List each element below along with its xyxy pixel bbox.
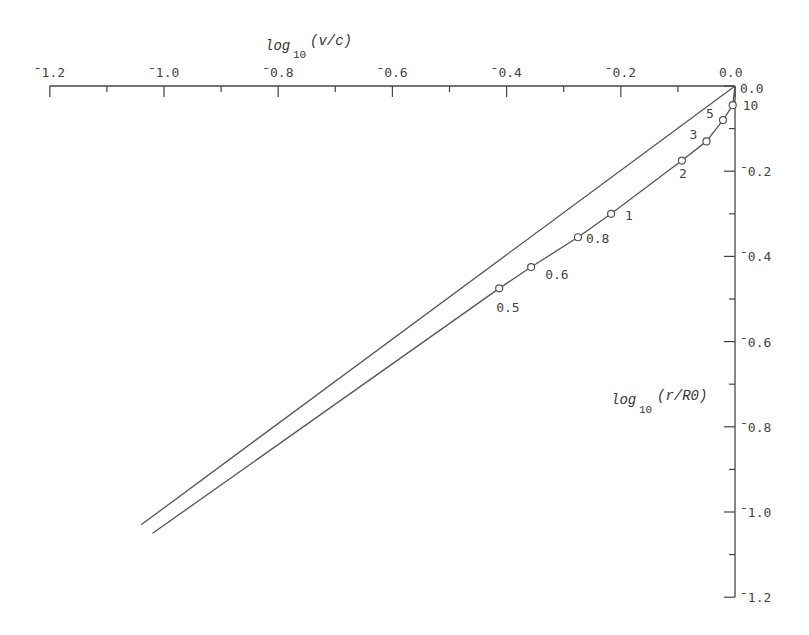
x-tick-label: ¯0.6 [376, 65, 407, 80]
data-point-label: 5 [706, 106, 714, 121]
y-tick-label: 0.0 [740, 81, 763, 96]
y-tick-label: ¯0.6 [740, 335, 771, 350]
y-tick-label: ¯1.2 [740, 590, 771, 605]
y-tick-label: ¯0.2 [740, 164, 771, 179]
data-markers: 1053210.80.60.5 [496, 98, 759, 315]
data-point-marker [528, 264, 535, 271]
x-tick-label: ¯0.4 [491, 65, 522, 80]
y-tick-label: ¯0.4 [740, 249, 771, 264]
x-tick-label: 0.0 [719, 65, 742, 80]
y-tick-label: ¯1.0 [740, 505, 771, 520]
y-axis-label-subscript: 10 [639, 404, 652, 416]
data-point-marker [720, 117, 727, 124]
x-axis-label: log [265, 38, 290, 54]
data-point-marker [678, 157, 685, 164]
data-point-label: 0.8 [586, 231, 609, 246]
y-tick-label: ¯0.8 [740, 420, 771, 435]
data-point-label: 2 [679, 166, 687, 181]
data-point-label: 1 [625, 208, 633, 223]
data-point-marker [496, 285, 503, 292]
x-tick-label: ¯0.2 [605, 65, 636, 80]
data-point-label: 0.5 [496, 300, 519, 315]
data-point-marker [608, 210, 615, 217]
data-point-label: 10 [743, 98, 759, 113]
data-point-label: 0.6 [545, 267, 568, 282]
y-axis-label: log [611, 392, 636, 408]
straight-line-series [141, 86, 735, 525]
axes: ¯1.2¯1.0¯0.8¯0.6¯0.4¯0.20.00.0¯0.2¯0.4¯0… [34, 65, 772, 605]
x-tick-label: ¯0.8 [262, 65, 293, 80]
y-axis-label-arg: (r/R0) [657, 388, 707, 404]
data-point-marker [574, 234, 581, 241]
marker-curve-series [153, 86, 735, 533]
chart-canvas: ¯1.2¯1.0¯0.8¯0.6¯0.4¯0.20.00.0¯0.2¯0.4¯0… [0, 0, 809, 635]
x-axis-label-subscript: 10 [293, 49, 306, 61]
data-point-label: 3 [689, 127, 697, 142]
x-tick-label: ¯1.0 [148, 65, 179, 80]
series-lines [141, 86, 735, 533]
data-point-marker [729, 102, 736, 109]
x-tick-label: ¯1.2 [34, 65, 65, 80]
x-axis-label-arg: (v/c) [310, 33, 352, 49]
data-point-marker [703, 138, 710, 145]
